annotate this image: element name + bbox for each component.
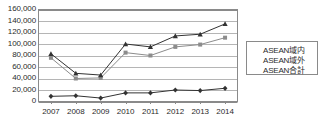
y-tick-label: 0	[32, 96, 36, 105]
diamond-marker	[73, 93, 78, 98]
line-chart: 020,00040,00060,00080,000100,000120,0001…	[0, 0, 321, 127]
triangle-marker	[48, 51, 53, 56]
y-tick-label: 120,000	[8, 27, 36, 36]
diamond-marker	[148, 90, 153, 95]
y-tick-label: 140,000	[8, 16, 36, 25]
gridlines	[39, 11, 238, 103]
legend-label-3: ASEAN合計	[263, 64, 305, 75]
square-marker	[223, 36, 227, 40]
y-tick-label: 20,000	[12, 85, 36, 94]
y-tick-label: 100,000	[8, 39, 36, 48]
diamond-marker	[198, 88, 203, 93]
x-tick-label: 2014	[210, 107, 240, 116]
series-1	[49, 86, 228, 101]
square-marker	[198, 43, 202, 47]
y-tick-label: 160,000	[8, 4, 36, 13]
square-marker	[74, 77, 78, 81]
series-3	[48, 21, 227, 77]
square-marker	[148, 54, 152, 58]
diamond-marker	[49, 94, 54, 99]
diamond-marker	[173, 87, 178, 92]
diamond-marker	[98, 95, 103, 100]
square-marker	[173, 45, 177, 49]
plot-area-border	[39, 10, 238, 102]
square-marker	[124, 51, 128, 55]
square-marker	[49, 56, 53, 60]
diamond-marker	[123, 90, 128, 95]
y-tick-label: 80,000	[12, 50, 36, 59]
y-tick-label: 60,000	[12, 62, 36, 71]
y-tick-label: 40,000	[12, 73, 36, 82]
